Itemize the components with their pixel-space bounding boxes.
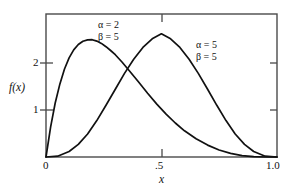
x-tick-label-0: 0 [43, 160, 49, 171]
annotation-beta-line-1: β = 5 [98, 31, 119, 43]
x-tick-label-05: .5 [155, 160, 163, 171]
beta-distribution-figure: f(x) x 2 1 0 .5 1.0 α = 2 β = 5 α = 5 β … [0, 0, 296, 188]
annotation-curve-beta-2-5: α = 2 β = 5 [98, 19, 119, 43]
curve-beta-2-5 [46, 40, 277, 157]
plot-frame [46, 14, 277, 157]
y-tick-label-1: 1 [33, 104, 39, 115]
annotation-alpha-line-2: α = 5 [196, 39, 217, 51]
annotation-beta-line-2: β = 5 [196, 51, 217, 63]
annotation-curve-beta-5-5: α = 5 β = 5 [196, 39, 217, 63]
x-axis-label: x [159, 174, 164, 186]
x-tick-label-10: 1.0 [266, 160, 280, 171]
y-axis-label: f(x) [9, 82, 25, 94]
curve-beta-5-5 [46, 34, 277, 157]
frame-border [46, 14, 277, 157]
y-tick-label-2: 2 [33, 57, 39, 68]
annotation-alpha-line-1: α = 2 [98, 19, 119, 31]
